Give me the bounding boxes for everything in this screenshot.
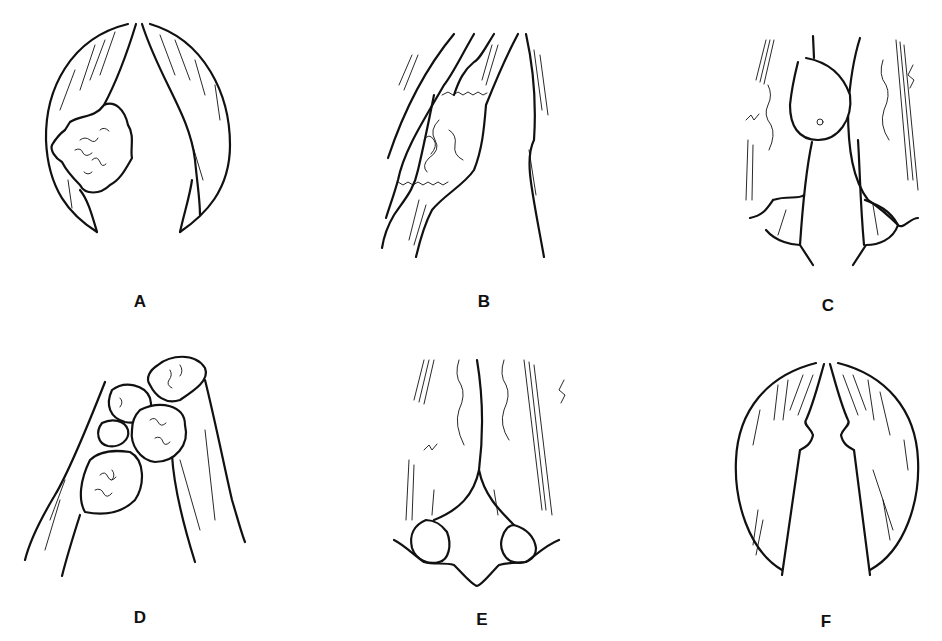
papilloma-illustration xyxy=(0,320,314,641)
panel-e: E xyxy=(314,320,628,641)
excised-lesion-illustration xyxy=(314,0,628,320)
panel-b: B xyxy=(314,0,628,320)
panel-label-b: B xyxy=(478,292,490,312)
panel-d: D xyxy=(0,320,314,641)
panel-label-d: D xyxy=(134,608,146,628)
polyp-illustration xyxy=(628,0,942,320)
panel-label-c: C xyxy=(822,296,834,316)
panel-f: F xyxy=(628,320,942,641)
vocal-folds-lesion-illustration xyxy=(0,0,314,320)
panel-label-a: A xyxy=(134,292,146,312)
vocal-nodules-illustration xyxy=(628,320,942,641)
panel-label-e: E xyxy=(476,610,487,630)
panel-c: C xyxy=(628,0,942,320)
panel-a: A xyxy=(0,0,314,320)
panel-label-f: F xyxy=(821,612,831,632)
arytenoid-illustration xyxy=(314,320,628,641)
